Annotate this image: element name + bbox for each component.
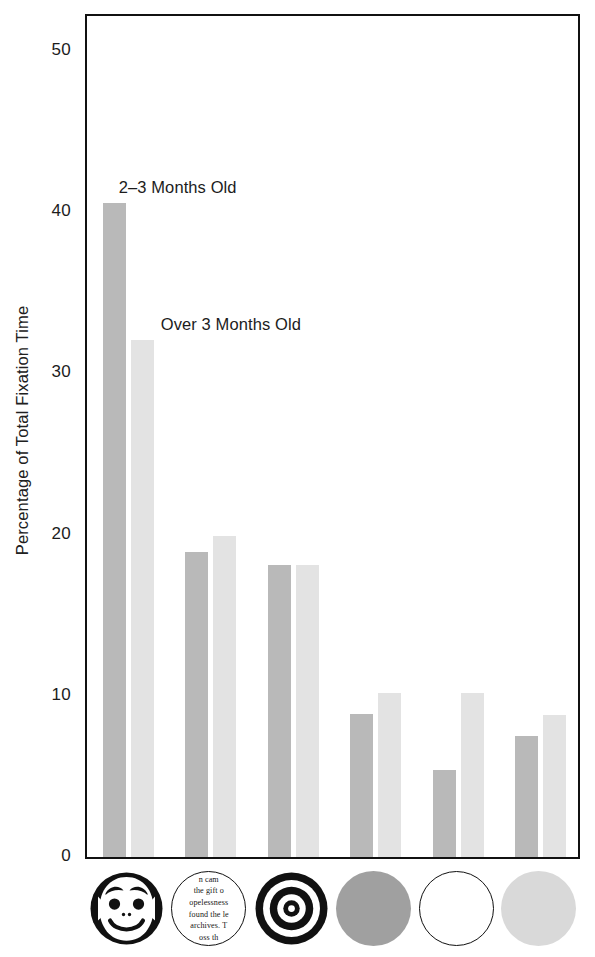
newsprint-line: opelessness	[189, 897, 228, 909]
bar-light-gray-disc-younger	[515, 736, 538, 857]
newsprint-line: archives. T	[190, 920, 227, 932]
light-gray-disc-icon	[501, 871, 576, 946]
stimulus-cell-bullseye	[251, 866, 331, 951]
bar-solid-gray-disc-younger	[350, 714, 373, 857]
bar-plain-white-disc-older	[461, 693, 484, 857]
solid-gray-disc-icon	[336, 871, 411, 946]
bar-schematic-face-younger	[103, 203, 126, 857]
bar-bullseye-younger	[268, 565, 291, 857]
series-b-annotation: Over 3 Months Old	[161, 315, 301, 334]
y-axis-title: Percentage of Total Fixation Time	[0, 0, 46, 860]
plot-area: 2–3 Months Old Over 3 Months Old	[85, 14, 580, 859]
bar-solid-gray-disc-older	[378, 693, 401, 857]
stimulus-cell-plain-white-disc	[416, 866, 496, 951]
y-tick-label-0: 0	[31, 846, 71, 866]
y-axis-title-text: Percentage of Total Fixation Time	[14, 305, 33, 555]
newsprint-line: oss th	[199, 932, 218, 944]
bar-bullseye-older	[296, 565, 319, 857]
newsprint-disc-icon: n camthe gift oopelessnessfound the lear…	[171, 871, 246, 946]
stimulus-cell-newsprint: n camthe gift oopelessnessfound the lear…	[169, 866, 249, 951]
bar-newsprint-younger	[185, 552, 208, 857]
stimulus-cell-solid-gray-disc	[334, 866, 414, 951]
schematic-face-icon	[89, 871, 164, 946]
y-tick-label-30: 30	[31, 362, 71, 382]
newsprint-line: the gift o	[194, 885, 224, 897]
bar-schematic-face-older	[131, 340, 154, 857]
bar-chart-figure: Percentage of Total Fixation Time 504030…	[0, 0, 595, 957]
series-a-annotation: 2–3 Months Old	[119, 178, 237, 197]
y-tick-label-10: 10	[31, 685, 71, 705]
bar-newsprint-older	[213, 536, 236, 857]
plain-white-disc-icon	[419, 871, 494, 946]
bar-plain-white-disc-younger	[433, 770, 456, 857]
stimulus-cell-schematic-face	[86, 866, 166, 951]
bar-light-gray-disc-older	[543, 715, 566, 857]
newsprint-line: n cam	[199, 874, 219, 886]
y-tick-label-20: 20	[31, 524, 71, 544]
stimulus-cell-light-gray-disc	[499, 866, 579, 951]
newsprint-line: found the le	[189, 909, 229, 921]
y-tick-label-50: 50	[31, 40, 71, 60]
bullseye-icon	[254, 871, 329, 946]
stimulus-icon-row: n camthe gift oopelessnessfound the lear…	[85, 866, 580, 956]
y-tick-label-40: 40	[31, 201, 71, 221]
